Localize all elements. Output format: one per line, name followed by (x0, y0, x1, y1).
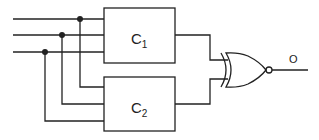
c1-output-wire (175, 35, 228, 60)
junction-dot-3 (42, 49, 48, 55)
xnor-input-curve (221, 53, 226, 87)
branch-wire-2 (62, 35, 104, 104)
branch-wire-1 (80, 19, 104, 87)
junction-dot-1 (77, 16, 83, 22)
c2-label: C2 (131, 99, 148, 119)
xnor-gate-icon (226, 53, 266, 87)
c1-label: C1 (131, 30, 148, 50)
circuit-diagram: C1 C2 O (0, 0, 319, 140)
output-label: O (289, 53, 298, 65)
inverter-bubble-icon (266, 67, 272, 73)
c2-output-wire (175, 79, 228, 104)
junction-dot-2 (59, 32, 65, 38)
